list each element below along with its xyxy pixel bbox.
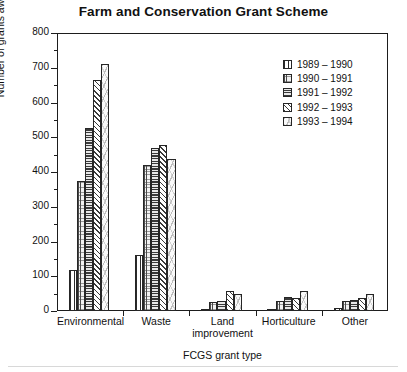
legend-swatch-horizontal xyxy=(283,88,292,97)
bar xyxy=(358,298,366,311)
legend-item: 1993 – 1994 xyxy=(283,115,383,129)
legend-label: 1990 – 1991 xyxy=(297,73,353,84)
y-axis-ticks: 0100200300400500600700800 xyxy=(0,33,57,311)
bar xyxy=(77,181,85,311)
x-category-label: Environmental xyxy=(57,316,123,328)
legend-swatch-speckle xyxy=(283,117,292,126)
legend-item: 1991 – 1992 xyxy=(283,86,383,100)
legend-item: 1990 – 1991 xyxy=(283,71,383,85)
x-category-label: Landimprovement xyxy=(189,316,255,339)
bar xyxy=(267,309,275,311)
legend-item: 1992 – 1993 xyxy=(283,100,383,114)
legend-item: 1989 – 1990 xyxy=(283,57,383,71)
bar xyxy=(135,255,143,311)
y-tick-label: 500 xyxy=(32,130,49,141)
chart-title: Farm and Conservation Grant Scheme xyxy=(0,4,407,19)
y-tick-label: 200 xyxy=(32,235,49,246)
x-category-line: Horticulture xyxy=(256,316,322,328)
y-tick-label: 700 xyxy=(32,61,49,72)
bar xyxy=(143,165,151,311)
chart-container: Farm and Conservation Grant Scheme Numbe… xyxy=(0,0,407,372)
bar xyxy=(69,270,77,311)
x-category-line: Environmental xyxy=(57,316,123,328)
legend: 1989 – 19901990 – 19911991 – 19921992 – … xyxy=(283,57,383,129)
bar xyxy=(93,80,101,311)
bar xyxy=(342,301,350,311)
y-tick-label: 0 xyxy=(43,304,49,315)
y-tick-label: 100 xyxy=(32,269,49,280)
bar xyxy=(151,148,159,311)
y-tick-label: 300 xyxy=(32,200,49,211)
bar xyxy=(334,308,342,311)
bar xyxy=(300,291,308,311)
bar xyxy=(292,298,300,311)
legend-label: 1989 – 1990 xyxy=(297,59,353,70)
x-category-label: Waste xyxy=(123,316,189,328)
bar xyxy=(284,297,292,311)
x-category-label: Horticulture xyxy=(256,316,322,328)
legend-label: 1991 – 1992 xyxy=(297,87,353,98)
x-axis-title: FCGS grant type xyxy=(57,349,388,361)
y-tick-label: 800 xyxy=(32,26,49,37)
bar xyxy=(350,300,358,311)
x-category-line: Waste xyxy=(123,316,189,328)
bar xyxy=(209,302,217,311)
bar xyxy=(217,301,225,311)
legend-swatch-vertical-wide xyxy=(283,60,292,69)
bar xyxy=(366,294,374,311)
x-category-line: improvement xyxy=(189,328,255,340)
x-category-line: Other xyxy=(322,316,388,328)
legend-swatch-vertical-fine xyxy=(283,74,292,83)
bar xyxy=(276,301,284,311)
bar xyxy=(85,128,93,311)
y-tick-label: 400 xyxy=(32,165,49,176)
legend-label: 1993 – 1994 xyxy=(297,116,353,127)
bar xyxy=(234,294,242,311)
bar xyxy=(167,159,175,311)
y-tick-mark xyxy=(51,311,57,312)
x-category-label: Other xyxy=(322,316,388,328)
x-category-line: Land xyxy=(189,316,255,328)
bar xyxy=(159,145,167,311)
page-edge-artifact xyxy=(8,366,398,367)
y-tick-label: 600 xyxy=(32,96,49,107)
legend-swatch-diagonal xyxy=(283,103,292,112)
bar xyxy=(226,291,234,311)
bar xyxy=(201,309,209,311)
legend-label: 1992 – 1993 xyxy=(297,102,353,113)
bar xyxy=(101,64,109,311)
